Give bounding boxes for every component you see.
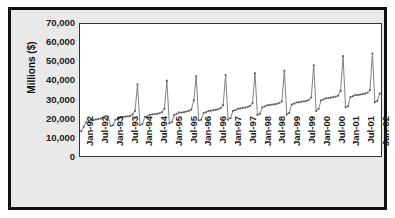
data-point xyxy=(225,74,227,76)
data-point xyxy=(313,64,315,66)
data-point xyxy=(205,111,207,113)
y-axis-tick: 30,000 xyxy=(29,95,75,105)
data-point xyxy=(259,113,261,115)
x-axis-tick: Jul-94 xyxy=(158,116,169,160)
y-axis-tick: 70,000 xyxy=(29,18,75,28)
y-axis-tick: 0 xyxy=(29,152,75,162)
data-point xyxy=(301,101,303,103)
data-point xyxy=(220,107,222,109)
data-point xyxy=(369,89,371,91)
data-point xyxy=(156,113,158,115)
data-point xyxy=(178,112,180,114)
y-axis-tick: 10,000 xyxy=(29,133,75,143)
data-point xyxy=(330,97,332,99)
data-point xyxy=(247,106,249,108)
y-axis-tick: 20,000 xyxy=(29,114,75,124)
data-point xyxy=(232,110,234,112)
chart-canvas: Millions ($) 70,00060,00050,00040,00030,… xyxy=(11,10,384,207)
data-point xyxy=(320,99,322,101)
data-point xyxy=(193,99,195,101)
data-point xyxy=(357,94,359,96)
data-point xyxy=(379,93,381,95)
x-axis-tick: Jan-02 xyxy=(380,116,391,160)
data-point xyxy=(217,108,219,110)
x-axis-tick: Jul-98 xyxy=(276,116,287,160)
data-point xyxy=(237,108,239,110)
data-point xyxy=(269,104,271,106)
data-point xyxy=(161,111,163,113)
x-axis-tick: Jul-01 xyxy=(365,116,376,160)
data-point xyxy=(374,101,376,103)
x-axis-tick: Jan-97 xyxy=(232,116,243,160)
y-axis-tick: 50,000 xyxy=(29,56,75,66)
data-point xyxy=(376,100,378,102)
data-point xyxy=(137,83,139,85)
data-point xyxy=(154,113,156,115)
data-point xyxy=(323,99,325,101)
y-axis-tick: 60,000 xyxy=(29,37,75,47)
data-point xyxy=(340,90,342,92)
data-point xyxy=(164,108,166,110)
x-axis-tick: Jul-93 xyxy=(129,116,140,160)
data-point xyxy=(325,97,327,99)
data-point xyxy=(364,93,366,95)
data-point xyxy=(80,130,82,132)
data-point xyxy=(332,96,334,98)
data-point xyxy=(186,111,188,113)
data-point xyxy=(215,109,217,111)
data-point xyxy=(222,104,224,106)
data-point xyxy=(261,106,263,108)
data-point xyxy=(315,110,317,112)
x-axis-tick: Jul-99 xyxy=(306,116,317,160)
x-axis-tick: Jul-97 xyxy=(247,116,258,160)
data-point xyxy=(159,112,161,114)
data-point xyxy=(249,105,251,107)
data-point xyxy=(242,107,244,109)
data-point xyxy=(166,80,168,82)
data-point xyxy=(359,94,361,96)
x-axis-tick: Jan-00 xyxy=(321,116,332,160)
data-point xyxy=(212,109,214,111)
x-axis-tick: Jul-92 xyxy=(99,116,110,160)
data-point xyxy=(190,109,192,111)
data-point xyxy=(274,103,276,105)
y-axis-tick: 40,000 xyxy=(29,75,75,85)
x-axis-tick: Jan-93 xyxy=(114,116,125,160)
data-point xyxy=(347,105,349,107)
data-point xyxy=(95,119,97,121)
data-point xyxy=(337,95,339,97)
data-point xyxy=(345,106,347,108)
data-point xyxy=(367,92,369,94)
data-point xyxy=(293,103,295,105)
data-point xyxy=(298,101,300,103)
series-line xyxy=(81,53,380,131)
data-point xyxy=(244,107,246,109)
data-point xyxy=(181,112,183,114)
data-point xyxy=(276,103,278,105)
data-point xyxy=(352,95,354,97)
x-axis-tick: Jan-99 xyxy=(291,116,302,160)
data-point xyxy=(291,104,293,106)
data-point xyxy=(296,102,298,104)
data-point xyxy=(283,70,285,72)
x-axis-tick: Jul-95 xyxy=(188,116,199,160)
data-point xyxy=(327,97,329,99)
chart-figure: Millions ($) 70,00060,00050,00040,00030,… xyxy=(0,0,395,218)
x-axis-tick: Jan-94 xyxy=(143,116,154,160)
x-axis-tick: Jan-92 xyxy=(84,116,95,160)
chart-frame: Millions ($) 70,00060,00050,00040,00030,… xyxy=(8,7,387,210)
data-point xyxy=(308,99,310,101)
data-point xyxy=(203,112,205,114)
data-point xyxy=(176,113,178,115)
x-axis-tick: Jan-96 xyxy=(202,116,213,160)
data-point xyxy=(342,55,344,57)
data-point xyxy=(279,102,281,104)
data-point xyxy=(310,97,312,99)
data-point xyxy=(350,96,352,98)
data-point xyxy=(235,109,237,111)
x-axis-tick: Jan-95 xyxy=(173,116,184,160)
data-point xyxy=(239,108,241,110)
data-point xyxy=(210,110,212,112)
data-point xyxy=(335,96,337,98)
y-axis-tick-labels: 70,00060,00050,00040,00030,00020,00010,0… xyxy=(27,23,75,157)
